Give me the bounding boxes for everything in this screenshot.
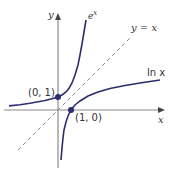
- point-1-0: [68, 107, 74, 113]
- y-axis-label: y: [48, 10, 54, 20]
- identity-label: y = x: [131, 23, 157, 33]
- ln-label: ln x: [147, 68, 165, 78]
- exp-superscript: x: [93, 9, 97, 17]
- exp-label: ex: [88, 10, 97, 21]
- point-b-label: (1, 0): [75, 113, 102, 123]
- point-0-1: [55, 94, 61, 100]
- point-a-label: (0, 1): [28, 88, 55, 98]
- ln-text: ln x: [147, 67, 165, 78]
- y-axis-arrow-icon: [55, 13, 61, 20]
- x-axis-arrow-icon: [158, 107, 165, 113]
- x-axis-label: x: [158, 115, 164, 125]
